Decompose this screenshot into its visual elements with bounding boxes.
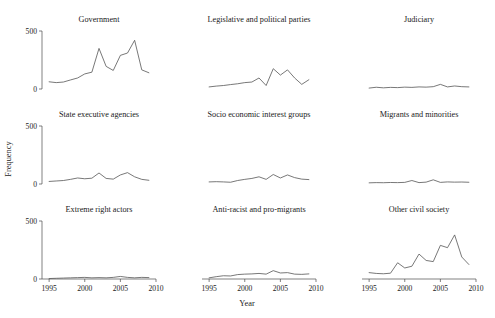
y-axis-title: Frequency xyxy=(4,141,13,177)
series-line xyxy=(369,180,469,183)
y-tick-label: 500 xyxy=(26,217,38,226)
series-line xyxy=(209,271,309,278)
series-line xyxy=(369,235,469,274)
panel-anti-racist-and-pro-migrants: Anti-racist and pro-migrants199520002005… xyxy=(202,205,324,293)
x-tick-label: 2005 xyxy=(273,284,288,293)
panel-extreme-right-actors: Extreme right actors50001995200020052010 xyxy=(26,205,164,293)
panel-title: Judiciary xyxy=(404,15,435,24)
series-line xyxy=(209,69,309,87)
y-tick-label: 0 xyxy=(33,85,37,94)
series-line xyxy=(369,84,469,88)
y-tick-label: 0 xyxy=(33,180,37,189)
y-tick-label: 0 xyxy=(33,275,37,284)
x-tick-label: 2005 xyxy=(433,284,448,293)
x-tick-label: 2005 xyxy=(113,284,128,293)
x-tick-label: 2010 xyxy=(468,284,483,293)
y-tick-label: 500 xyxy=(26,27,38,36)
panel-title: Extreme right actors xyxy=(66,205,133,214)
panel-title: State executive agencies xyxy=(59,110,139,119)
x-tick-label: 2010 xyxy=(148,284,163,293)
panels-container: Government5000Legislative and political … xyxy=(26,15,484,293)
panel-title: Government xyxy=(79,15,121,24)
x-axis-title: Year xyxy=(239,299,255,308)
series-line xyxy=(49,276,149,278)
x-tick-label: 2000 xyxy=(397,284,412,293)
x-tick-label: 2000 xyxy=(77,284,92,293)
series-line xyxy=(49,173,149,182)
panel-legislative-and-political-parties: Legislative and political parties xyxy=(208,15,311,87)
panel-socio-economic-interest-groups: Socio economic interest groups xyxy=(207,110,310,182)
panel-migrants-and-minorities: Migrants and minorities xyxy=(369,110,469,183)
y-tick-label: 500 xyxy=(26,122,38,131)
panel-title: Anti-racist and pro-migrants xyxy=(212,205,305,214)
series-line xyxy=(209,174,309,182)
x-tick-label: 1995 xyxy=(202,284,217,293)
series-line xyxy=(49,40,149,82)
x-tick-label: 1995 xyxy=(362,284,377,293)
panel-title: Other civil society xyxy=(389,205,450,214)
panel-title: Migrants and minorities xyxy=(380,110,459,119)
x-tick-label: 1995 xyxy=(42,284,57,293)
panel-title: Legislative and political parties xyxy=(208,15,311,24)
panel-title: Socio economic interest groups xyxy=(207,110,310,119)
small-multiples-line-chart-figure: Frequency Year Government5000Legislative… xyxy=(0,0,495,318)
x-tick-label: 2000 xyxy=(237,284,252,293)
panel-state-executive-agencies: State executive agencies5000 xyxy=(26,110,149,189)
panel-judiciary: Judiciary xyxy=(369,15,469,88)
panel-government: Government5000 xyxy=(26,15,149,94)
x-tick-label: 2010 xyxy=(308,284,323,293)
panel-other-civil-society: Other civil society1995200020052010 xyxy=(362,205,484,293)
